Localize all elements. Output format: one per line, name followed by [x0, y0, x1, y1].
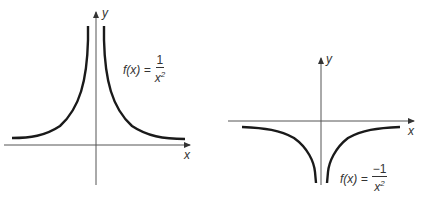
graph-positive-reciprocal-square [4, 12, 190, 185]
denominator: x2 [374, 177, 384, 194]
formula-lhs: f(x) = [340, 172, 368, 186]
y-axis-label-right: y [326, 52, 332, 66]
numerator: 1 [156, 54, 165, 68]
formula-lhs: f(x) = [123, 63, 151, 77]
x-axis-label-right: x [408, 124, 414, 138]
y-axis-label-left: y [102, 6, 108, 20]
x-axis-label-left: x [184, 148, 190, 162]
denominator-exponent: 2 [380, 179, 384, 188]
denominator-exponent: 2 [161, 70, 165, 79]
numerator: −1 [372, 163, 388, 177]
fraction: −1 x2 [372, 163, 388, 194]
formula-label-right: f(x) = −1 x2 [340, 163, 387, 194]
fraction: 1 x2 [155, 54, 165, 85]
curve-left-branch [242, 127, 316, 183]
denominator: x2 [155, 68, 165, 85]
curve-left-branch [12, 26, 88, 138]
formula-label-left: f(x) = 1 x2 [123, 54, 165, 85]
